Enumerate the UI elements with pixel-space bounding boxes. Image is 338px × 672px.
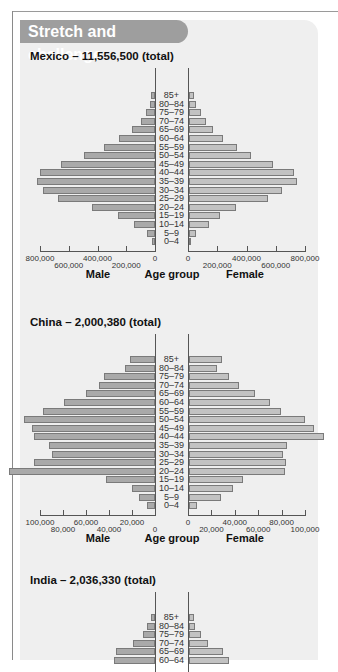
female-bar [189, 365, 217, 372]
axis-tick [132, 510, 133, 516]
male-bar [133, 640, 155, 647]
male-bar [125, 365, 155, 372]
female-bar [189, 657, 229, 664]
male-bar [84, 152, 155, 159]
female-bar [189, 126, 213, 133]
female-bar [189, 195, 268, 202]
male-bar [64, 399, 155, 406]
male-bar [99, 382, 155, 389]
male-tick-label: 800,000 [26, 254, 55, 263]
male-bar [49, 442, 155, 449]
age-group-axis-label: Age group [145, 532, 200, 544]
male-bar [147, 623, 155, 630]
female-bar [189, 118, 206, 125]
female-bar [189, 238, 191, 245]
male-bar [143, 631, 155, 638]
female-tick-label: 100,000 [291, 525, 320, 534]
male-bar [9, 468, 155, 475]
female-bar [189, 433, 324, 440]
female-tick-label: 0 [186, 254, 190, 263]
axis-tick [40, 246, 41, 252]
male-tick-label: 60,000 [74, 518, 98, 527]
female-tick-label: 400,000 [232, 254, 261, 263]
female-bar [189, 382, 239, 389]
male-tick-label: 200,000 [112, 261, 141, 270]
female-bar [189, 614, 194, 621]
female-bar [189, 623, 195, 630]
female-bar [189, 390, 255, 397]
male-bar [147, 230, 155, 237]
age-group-axis-label: Age group [145, 268, 200, 280]
female-bar [189, 178, 297, 185]
female-bar [189, 640, 208, 647]
female-bar [189, 230, 196, 237]
male-bar [132, 485, 155, 492]
female-bar [189, 161, 273, 168]
male-bar [119, 135, 155, 142]
section-banner: Stretch and challenge [20, 20, 188, 43]
chart-title-china: China – 2,000,380 (total) [30, 316, 161, 328]
male-tick-label: 80,000 [51, 525, 75, 534]
female-bar [189, 485, 233, 492]
female-bar [189, 187, 282, 194]
male-bar [151, 614, 155, 621]
male-bar [106, 476, 155, 483]
male-bar [40, 169, 155, 176]
male-bar [116, 648, 155, 655]
female-label: Female [226, 268, 264, 280]
female-axis [188, 515, 305, 516]
male-bar [34, 433, 155, 440]
male-bar [151, 92, 155, 99]
male-bar [118, 212, 155, 219]
female-bar [189, 442, 287, 449]
male-bar [92, 204, 155, 211]
axis-tick [282, 510, 283, 516]
age-group-label: 60–64 [156, 656, 187, 665]
age-group-label: 0–4 [156, 501, 187, 510]
male-bar [114, 657, 155, 664]
axis-tick [109, 510, 110, 516]
female-tick-label: 40,000 [223, 518, 247, 527]
male-bar [32, 425, 155, 432]
female-bar [189, 92, 194, 99]
male-bar [134, 221, 155, 228]
male-tick-label: 20,000 [120, 518, 144, 527]
male-bar [139, 494, 155, 501]
male-bar [52, 451, 156, 458]
male-label: Male [86, 532, 110, 544]
female-bar [189, 373, 229, 380]
axis-tick [63, 510, 64, 516]
female-bar [189, 468, 285, 475]
axis-tick [247, 246, 248, 252]
female-bar [189, 101, 196, 108]
male-bar [104, 373, 155, 380]
axis-tick [98, 246, 99, 252]
female-bar [189, 476, 243, 483]
axis-tick [211, 510, 212, 516]
male-bar [34, 459, 155, 466]
female-bar [189, 109, 201, 116]
axis-tick [305, 246, 306, 252]
axis-tick [155, 510, 156, 516]
male-bar [130, 356, 155, 363]
female-bar [189, 144, 237, 151]
female-bar [189, 502, 197, 509]
female-tick-label: 20,000 [199, 525, 223, 534]
male-axis [40, 515, 155, 516]
page-left-rule [12, 11, 13, 660]
female-bar [189, 204, 236, 211]
axis-tick [126, 246, 127, 252]
female-label: Female [226, 532, 264, 544]
female-bar [189, 631, 201, 638]
axis-tick [188, 246, 189, 252]
axis-tick [258, 510, 259, 516]
female-bar [189, 451, 283, 458]
male-bar [150, 101, 155, 108]
female-bar [189, 356, 222, 363]
axis-tick [155, 246, 156, 252]
axis-tick [188, 510, 189, 516]
female-bar [189, 425, 314, 432]
female-tick-label: 0 [186, 518, 190, 527]
axis-tick [217, 246, 218, 252]
male-bar [24, 416, 155, 423]
